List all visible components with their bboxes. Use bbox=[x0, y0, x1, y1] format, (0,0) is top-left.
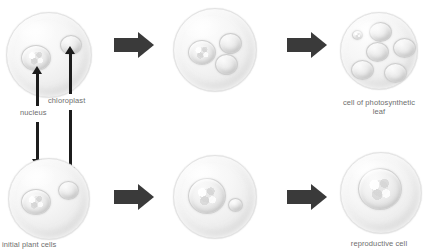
arrow-shaft bbox=[287, 38, 313, 52]
process-arrow-top-left bbox=[114, 32, 154, 58]
nucleus-reproductive bbox=[358, 168, 402, 210]
process-arrow-top-right bbox=[287, 32, 327, 58]
chloroplast-leaf-5 bbox=[384, 63, 407, 83]
arrow-head bbox=[311, 32, 327, 58]
caption-reproductive-cell: reproductive cell bbox=[333, 239, 425, 248]
chloroplast-intermediate-top-2 bbox=[215, 54, 238, 75]
cell-initial-plant-top bbox=[6, 12, 92, 98]
chloroplast-leaf-3 bbox=[366, 42, 389, 62]
chloroplast-pointer-up bbox=[65, 46, 76, 94]
arrow-head bbox=[311, 184, 327, 210]
caption-nucleus: nucleus bbox=[20, 108, 47, 117]
nucleus-pointer-up bbox=[32, 66, 43, 106]
arrow-head bbox=[138, 32, 154, 58]
caption-initial-plant-cells: initial plant cells bbox=[2, 240, 56, 249]
arrow-shaft bbox=[114, 190, 140, 204]
cell-reproductive bbox=[340, 152, 422, 234]
caption-chloroplast: chloroplast bbox=[48, 96, 85, 105]
chloroplast-leaf-4 bbox=[351, 60, 374, 80]
arrow-shaft bbox=[69, 110, 72, 168]
arrow-shaft bbox=[69, 53, 72, 94]
nucleus-photosynthetic-leaf bbox=[352, 30, 363, 40]
nucleus-intermediate-bottom bbox=[188, 178, 226, 214]
process-arrow-bottom-left bbox=[114, 184, 154, 210]
process-arrow-bottom-right bbox=[287, 184, 327, 210]
arrow-shaft bbox=[36, 73, 39, 106]
chloroplast-intermediate-bottom bbox=[228, 198, 243, 212]
chloroplast-initial-bottom bbox=[58, 181, 79, 200]
nucleus-intermediate-top bbox=[188, 40, 216, 65]
cell-photosynthetic-leaf bbox=[340, 12, 418, 90]
cell-intermediate-bottom bbox=[173, 155, 257, 239]
arrow-shaft bbox=[36, 122, 39, 160]
plant-cell-differentiation-diagram: cell of photosynthetic leaf nucleus chlo… bbox=[0, 0, 425, 251]
arrow-shaft bbox=[114, 38, 140, 52]
chloroplast-leaf-2 bbox=[393, 38, 416, 58]
arrow-head bbox=[138, 184, 154, 210]
arrow-shaft bbox=[287, 190, 313, 204]
nucleus-initial-bottom bbox=[21, 189, 51, 215]
cell-intermediate-top bbox=[173, 8, 257, 92]
chloroplast-leaf-1 bbox=[369, 22, 392, 42]
chloroplast-intermediate-top-1 bbox=[219, 33, 242, 54]
caption-photosynthetic-leaf-cell-line1: cell of photosynthetic bbox=[333, 98, 425, 107]
caption-photosynthetic-leaf-cell-line2: leaf bbox=[333, 107, 425, 116]
cell-initial-plant-bottom bbox=[8, 158, 90, 240]
